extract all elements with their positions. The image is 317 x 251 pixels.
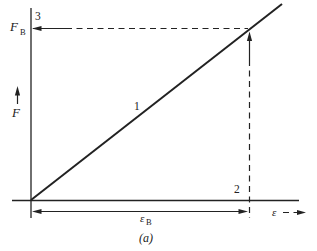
fb-label-sub: B xyxy=(20,27,26,37)
x-direction-arrowhead-icon xyxy=(297,210,306,215)
eb-measure-left-arrowhead-icon xyxy=(32,209,42,214)
y-axis-label: F xyxy=(11,105,21,120)
eb-measure-right-arrowhead-icon xyxy=(239,209,249,214)
x-axis-label: ε xyxy=(272,206,277,218)
figure-caption: (a) xyxy=(139,231,153,245)
force-elongation-plot: 3 F B F 1 2 ε B ε (a) xyxy=(0,0,317,251)
force-line xyxy=(31,4,282,200)
fb-label: F xyxy=(9,19,19,34)
eb-label: ε xyxy=(140,212,145,224)
y-direction-arrowhead-icon xyxy=(15,86,20,96)
point-2-label: 2 xyxy=(234,183,240,195)
force-elongation-figure: 3 F B F 1 2 ε B ε (a) xyxy=(0,0,317,251)
point-1-label: 1 xyxy=(134,100,140,112)
eb-label-sub: B xyxy=(146,217,152,227)
point-3-label: 3 xyxy=(35,10,41,22)
